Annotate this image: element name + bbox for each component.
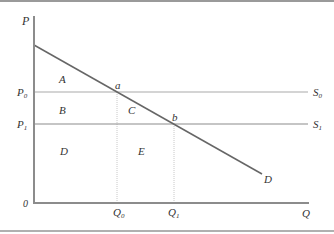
demand-line bbox=[34, 45, 262, 174]
y-axis-label: P bbox=[21, 14, 30, 28]
point-a-label: a bbox=[115, 79, 121, 91]
region-b-label: B bbox=[59, 104, 66, 116]
region-e-label: E bbox=[137, 145, 145, 157]
q1-label: Q1 bbox=[168, 206, 179, 220]
supply-demand-diagram: P Q 0 P0 P1 S0 S1 Q0 Q1 D a b A B C D E bbox=[0, 0, 334, 234]
x-axis-label: Q bbox=[302, 207, 310, 219]
p1-label: P1 bbox=[16, 118, 27, 132]
point-b-label: b bbox=[172, 111, 178, 123]
origin-label: 0 bbox=[23, 198, 28, 209]
q0-label: Q0 bbox=[113, 206, 125, 220]
region-c-label: C bbox=[128, 104, 136, 116]
demand-label: D bbox=[263, 173, 272, 185]
s0-label: S0 bbox=[313, 86, 323, 100]
region-a-label: A bbox=[58, 73, 66, 85]
s1-label: S1 bbox=[313, 118, 322, 132]
p0-label: P0 bbox=[16, 86, 28, 100]
region-d-label: D bbox=[59, 145, 68, 157]
